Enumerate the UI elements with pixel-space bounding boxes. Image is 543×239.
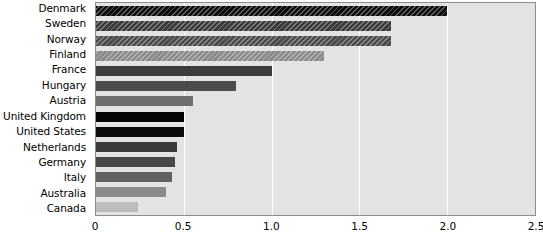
bar (96, 127, 184, 137)
bar-row (96, 94, 535, 109)
x-tick-label: 1.0 (263, 220, 280, 232)
bar-row (96, 109, 535, 124)
bar (96, 172, 172, 182)
category-axis-labels: DenmarkSwedenNorwayFinlandFranceHungaryA… (0, 0, 91, 216)
x-tick-label: 0.5 (175, 220, 192, 232)
bar (96, 187, 166, 197)
x-tick-label: 1.5 (351, 220, 368, 232)
bar-row (96, 124, 535, 139)
x-axis: 00.51.01.52.02.5 (95, 216, 536, 239)
bar (96, 81, 236, 91)
bar-row (96, 33, 535, 48)
category-label: Hungary (0, 77, 91, 92)
bar-row (96, 139, 535, 154)
bar (96, 21, 391, 31)
bar-row (96, 170, 535, 185)
bar (96, 202, 138, 212)
bar-row (96, 200, 535, 215)
category-label: France (0, 62, 91, 77)
category-label: Austria (0, 93, 91, 108)
bar-row (96, 18, 535, 33)
category-label: United States (0, 123, 91, 138)
bar (96, 142, 177, 152)
bar (96, 112, 184, 122)
bar-row (96, 154, 535, 169)
category-label: Norway (0, 31, 91, 46)
bar (96, 36, 391, 46)
category-label: Italy (0, 170, 91, 185)
category-label: Netherlands (0, 139, 91, 154)
bar (96, 157, 175, 167)
x-tick-label: 0 (92, 220, 99, 232)
category-label: Germany (0, 154, 91, 169)
bar-row (96, 64, 535, 79)
bar-row (96, 48, 535, 63)
bars-layer (96, 3, 535, 215)
plot-area (95, 2, 536, 216)
category-label: United Kingdom (0, 108, 91, 123)
category-label: Sweden (0, 15, 91, 30)
bar-row (96, 3, 535, 18)
gridline (535, 3, 536, 215)
bar (96, 66, 272, 76)
category-label: Canada (0, 200, 91, 215)
bar (96, 6, 447, 16)
bar (96, 51, 324, 61)
x-tick-label: 2.0 (439, 220, 456, 232)
category-label: Denmark (0, 0, 91, 15)
bar-row (96, 185, 535, 200)
bar-chart: DenmarkSwedenNorwayFinlandFranceHungaryA… (0, 0, 543, 239)
bar (96, 96, 193, 106)
category-label: Finland (0, 46, 91, 61)
category-label: Australia (0, 185, 91, 200)
bar-row (96, 79, 535, 94)
x-tick-label: 2.5 (528, 220, 543, 232)
